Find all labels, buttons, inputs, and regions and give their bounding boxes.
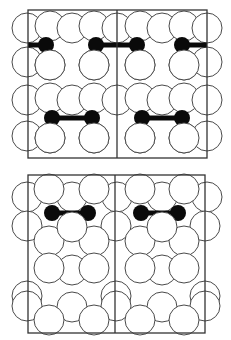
surface-structure-figure xyxy=(0,0,231,340)
substrate-atom-front xyxy=(35,50,65,80)
substrate-atom xyxy=(169,253,199,283)
substrate-atom xyxy=(169,174,199,204)
substrate-atom-front xyxy=(79,123,109,153)
substrate-atom xyxy=(79,253,109,283)
substrate-atom-front xyxy=(35,123,65,153)
substrate-atom-front xyxy=(147,212,177,242)
substrate-atom-front xyxy=(125,50,155,80)
substrate-atom xyxy=(34,174,64,204)
substrate-atom-front xyxy=(169,50,199,80)
substrate-atom xyxy=(34,305,64,335)
substrate-atom xyxy=(125,305,155,335)
substrate-atom xyxy=(169,305,199,335)
panel-bottom-adsorbate-structure xyxy=(12,174,222,335)
substrate-atom xyxy=(125,174,155,204)
substrate-atom xyxy=(125,253,155,283)
substrate-atom-front xyxy=(125,123,155,153)
substrate-atom xyxy=(34,253,64,283)
adsorbate-atom xyxy=(133,205,149,221)
substrate-atom xyxy=(79,305,109,335)
substrate-atom-front xyxy=(79,50,109,80)
substrate-atom xyxy=(79,174,109,204)
panel-top-adsorbate-structure xyxy=(12,10,222,158)
figure-canvas xyxy=(0,0,231,340)
substrate-atom-front xyxy=(57,212,87,242)
adsorbate-atom xyxy=(44,205,60,221)
substrate-atom-front xyxy=(169,123,199,153)
